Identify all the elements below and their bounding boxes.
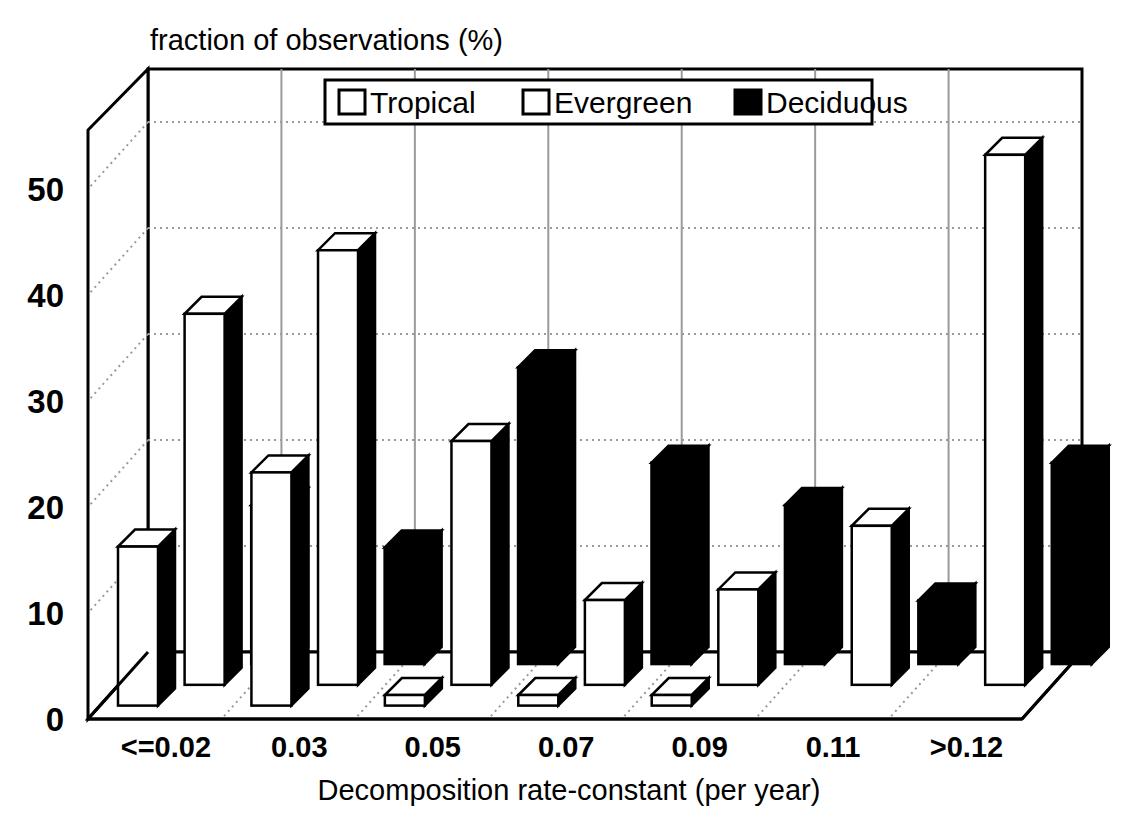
x-axis-category-label: 0.11	[806, 731, 861, 763]
y-axis-tick-label: 30	[27, 383, 64, 420]
x-axis-title: Decomposition rate-constant (per year)	[318, 774, 821, 806]
bar-front-face	[585, 600, 625, 685]
bar-side-face	[358, 233, 375, 685]
bar-side-face	[758, 572, 775, 684]
bar-deciduous-0.03	[385, 530, 442, 664]
legend-swatch-deciduous	[735, 90, 761, 114]
bar-deciduous-0.11	[918, 583, 975, 664]
bar-front-face	[518, 367, 558, 664]
bar-chart-svg: fraction of observations (%) 10203040500…	[0, 0, 1138, 837]
bar-side-face	[491, 424, 508, 685]
bar-front-face	[518, 695, 558, 706]
legend-label-tropical: Tropical	[370, 86, 476, 119]
y-axis-tick-label: 10	[27, 595, 64, 632]
bar-side-face	[225, 297, 242, 685]
bar-side-face	[825, 488, 842, 664]
x-axis-category-labels: <=0.020.030.050.070.090.11>0.12	[121, 731, 1003, 763]
bar-deciduous-0.07	[651, 446, 708, 664]
bar-front-face	[1052, 463, 1092, 664]
legend-swatch-tropical	[339, 90, 365, 114]
y-axis-tick-label: 50	[27, 171, 64, 208]
bar-front-face	[318, 250, 358, 685]
bar-front-face	[918, 600, 958, 664]
x-axis-category-label: >0.12	[930, 731, 1003, 763]
legend-label-deciduous: Deciduous	[766, 86, 908, 119]
bar-evergreen-0.09	[718, 572, 775, 684]
bar-evergreen-0.11	[852, 509, 909, 685]
bar-evergreen-0.07	[585, 583, 642, 685]
bar-side-face	[158, 530, 175, 706]
bar-front-face	[652, 695, 692, 706]
bar-deciduous-0.05	[518, 350, 575, 664]
bar-evergreen-0.03	[318, 233, 375, 685]
bar-side-face	[691, 446, 708, 664]
bar-front-face	[118, 547, 158, 706]
bar-front-face	[718, 589, 758, 684]
y-axis-tick-labels: 10203040500	[27, 171, 64, 738]
bar-side-face	[425, 530, 442, 664]
bar-side-face	[291, 455, 308, 705]
chart-legend: Tropical Evergreen Deciduous	[325, 80, 908, 124]
chart-container: fraction of observations (%) 10203040500…	[0, 0, 1138, 837]
bar-evergreen->0.12	[985, 138, 1042, 685]
y-axis-tick-label: 40	[27, 277, 64, 314]
bar-evergreen-<=0.02	[185, 297, 242, 685]
bar-front-face	[785, 505, 825, 664]
bar-front-face	[385, 547, 425, 664]
bar-evergreen-0.05	[451, 424, 508, 685]
chart-title: fraction of observations (%)	[150, 24, 503, 56]
legend-label-evergreen: Evergreen	[554, 86, 692, 119]
bar-front-face	[251, 472, 291, 705]
x-axis-category-label: <=0.02	[121, 731, 211, 763]
x-axis-category-label: 0.07	[538, 731, 594, 763]
x-axis-category-label: 0.05	[405, 731, 461, 763]
bar-front-face	[385, 695, 425, 706]
bar-tropical-0.03	[251, 455, 308, 705]
bar-deciduous->0.12	[1052, 446, 1109, 664]
bar-side-face	[1025, 138, 1042, 685]
bar-front-face	[985, 155, 1025, 685]
x-axis-category-label: 0.09	[671, 731, 727, 763]
bar-deciduous-0.09	[785, 488, 842, 664]
bar-tropical-<=0.02	[118, 530, 175, 706]
y-axis-tick-label: 20	[27, 489, 64, 526]
bar-front-face	[185, 314, 225, 685]
y-axis-tick-label-zero: 0	[46, 701, 64, 738]
bar-side-face	[892, 509, 909, 685]
bar-front-face	[651, 463, 691, 664]
bar-front-face	[451, 441, 491, 685]
x-axis-category-label: 0.03	[271, 731, 327, 763]
bar-side-face	[558, 350, 575, 664]
bar-side-face	[1092, 446, 1109, 664]
bar-front-face	[852, 526, 892, 685]
legend-swatch-evergreen	[523, 90, 549, 114]
